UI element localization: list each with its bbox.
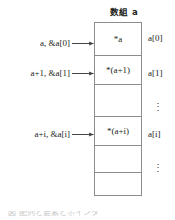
index-label-ellipsis-lower: ⋮ <box>153 163 163 173</box>
array-box: *a *(a+1) *(a+i) <box>94 22 142 196</box>
pointer-label-3: a+i, &a[i] <box>34 129 70 140</box>
index-label-1: a[1] <box>148 68 163 79</box>
array-cell-text-3: *(a+i) <box>107 126 129 136</box>
pointer-label-1: a+1, &a[1] <box>30 68 70 79</box>
array-title: 数組 a <box>96 7 152 18</box>
figure-caption-strip: 図 配列と要素とポインタ <box>0 211 175 220</box>
pointer-label-group: a, &a[0] a+1, &a[1] a+i, &a[i] <box>0 0 70 220</box>
array-cell-2 <box>95 85 141 117</box>
figure-caption: 図 配列と要素とポインタ <box>8 211 99 218</box>
index-label-0: a[0] <box>148 33 163 44</box>
index-label-3: a[i] <box>148 129 161 140</box>
pointer-label-0: a, &a[0] <box>40 38 70 49</box>
array-cell-5 <box>95 173 141 197</box>
array-pointer-diagram: 数組 a *a *(a+1) *(a+i) a, &a[0] a+1, &a[1… <box>0 0 175 220</box>
array-cell-0: *a <box>95 23 141 56</box>
array-cell-1: *(a+1) <box>95 56 141 85</box>
array-cell-text-1: *(a+1) <box>106 65 130 75</box>
array-cell-3: *(a+i) <box>95 117 141 146</box>
array-cell-4 <box>95 146 141 173</box>
array-cell-text-0: *a <box>114 34 123 44</box>
index-label-ellipsis-upper: ⋮ <box>153 102 163 112</box>
